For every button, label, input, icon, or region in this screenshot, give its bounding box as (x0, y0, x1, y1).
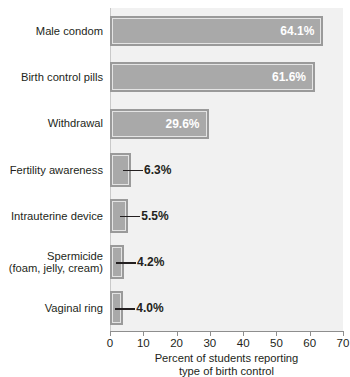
category-label: Intrauterine device (0, 210, 103, 222)
bar-value-label: 64.1% (280, 24, 314, 38)
x-tick-label: 10 (137, 337, 150, 349)
bar-fill: 61.6% (113, 65, 312, 89)
value-leader-line (115, 308, 135, 310)
x-tick (276, 331, 277, 336)
value-leader-line (123, 170, 143, 172)
x-axis-title-line-1: Percent of students reporting (110, 352, 343, 365)
x-tick-label: 40 (237, 337, 250, 349)
bar-inner-frame: 64.1% (112, 18, 321, 44)
category-label: Fertility awareness (0, 164, 103, 176)
bar-value-label: 4.2% (137, 255, 164, 269)
bar-value-label: 4.0% (136, 301, 163, 315)
x-axis-title: Percent of students reporting type of bi… (110, 352, 343, 377)
category-label: Birth control pills (0, 71, 103, 83)
category-label: Vaginal ring (0, 302, 103, 314)
bar-inner-frame: 61.6% (112, 64, 313, 90)
x-tick-label: 20 (170, 337, 183, 349)
x-tick-label: 50 (270, 337, 283, 349)
x-axis-line (110, 331, 343, 332)
bar-value-label: 6.3% (144, 163, 171, 177)
x-tick (310, 331, 311, 336)
x-axis-title-line-2: type of birth control (110, 365, 343, 377)
x-tick (143, 331, 144, 336)
x-tick (210, 331, 211, 336)
x-tick (177, 331, 178, 336)
category-label: Withdrawal (0, 117, 103, 129)
x-tick (110, 331, 111, 336)
bar-fill: 29.6% (113, 112, 206, 136)
bar: 64.1% (110, 16, 323, 46)
category-label: Spermicide (foam, jelly, cream) (0, 250, 103, 275)
value-leader-line (116, 262, 136, 264)
x-tick-label: 70 (337, 337, 350, 349)
x-tick (243, 331, 244, 336)
bar-value-label: 29.6% (165, 117, 199, 131)
bar-inner-frame: 29.6% (112, 111, 207, 137)
category-label: Male condom (0, 25, 103, 37)
x-tick (343, 331, 344, 336)
x-tick-label: 30 (203, 337, 216, 349)
bar-value-label: 5.5% (141, 209, 168, 223)
x-tick-label: 0 (107, 337, 113, 349)
bar: 61.6% (110, 62, 315, 92)
bar: 29.6% (110, 109, 209, 139)
x-tick-label: 60 (303, 337, 316, 349)
value-leader-line (120, 216, 140, 218)
bar-value-label: 61.6% (272, 70, 306, 84)
bar-fill: 64.1% (113, 19, 320, 43)
